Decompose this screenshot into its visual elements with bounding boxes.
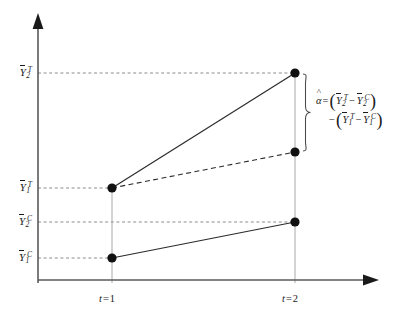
counterfactual-trend-line	[112, 152, 295, 188]
y-label-y2C: Y2C	[6, 215, 32, 229]
diff-in-diff-figure: Y2T Y1T Y2C Y1C t=1 t=2 ^α=(Y2T−Y2C) −(Y…	[0, 0, 400, 320]
axis-lines	[38, 24, 368, 283]
y-label-y2T: Y2T	[6, 66, 32, 80]
figure-canvas	[0, 0, 400, 320]
data-point-treated-t1	[107, 183, 116, 192]
y-axis-arrowhead	[33, 13, 44, 29]
alpha-hat-symbol: ^α	[316, 95, 322, 106]
treatment-effect-formula: ^α=(Y2T−Y2C) −(Y1T−Y1C)	[316, 92, 382, 130]
guide-lines	[38, 73, 296, 258]
formula-line-1: ^α=(Y2T−Y2C)	[316, 92, 382, 111]
treated-trend-line	[112, 73, 295, 188]
tick-drop-lines	[112, 73, 295, 283]
x-tick-label-t1: t=1	[99, 294, 115, 305]
data-point-control-t2	[290, 217, 299, 226]
y-label-y1C: Y1C	[6, 251, 32, 265]
formula-line-2: −(Y1T−Y1C)	[328, 111, 382, 130]
data-point-control-t1	[107, 253, 116, 262]
control-trend-line	[112, 222, 295, 258]
y-label-y1T: Y1T	[6, 181, 32, 195]
x-tick-label-t2: t=2	[282, 294, 298, 305]
x-axis-arrowhead	[363, 274, 379, 285]
data-point-counterfactual-t2	[290, 147, 299, 156]
effect-brace	[303, 74, 311, 151]
data-point-markers	[107, 68, 299, 262]
data-point-treated-t2	[290, 68, 299, 77]
